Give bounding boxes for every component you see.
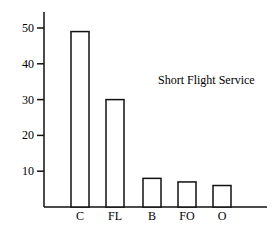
x-tick-labels: CFLBFOO	[76, 209, 227, 223]
y-tick-label: 20	[22, 128, 34, 142]
y-tick-label: 10	[22, 164, 34, 178]
x-tick-label: FO	[179, 209, 195, 223]
bars	[71, 32, 231, 207]
chart-annotation: Short Flight Service	[158, 73, 255, 87]
y-ticks: 1020304050	[22, 21, 44, 178]
y-tick-label: 40	[22, 57, 34, 71]
bar-c	[71, 32, 89, 207]
bar-o	[213, 186, 231, 207]
bar-chart: 1020304050 CFLBFOO Short Flight Service	[0, 0, 280, 230]
x-tick-label: C	[76, 209, 84, 223]
bar-fl	[106, 100, 124, 207]
y-tick-label: 50	[22, 21, 34, 35]
x-tick-label: O	[218, 209, 227, 223]
y-tick-label: 30	[22, 93, 34, 107]
x-tick-label: FL	[108, 209, 122, 223]
x-tick-label: B	[148, 209, 156, 223]
bar-b	[143, 178, 161, 207]
bar-fo	[178, 182, 196, 207]
